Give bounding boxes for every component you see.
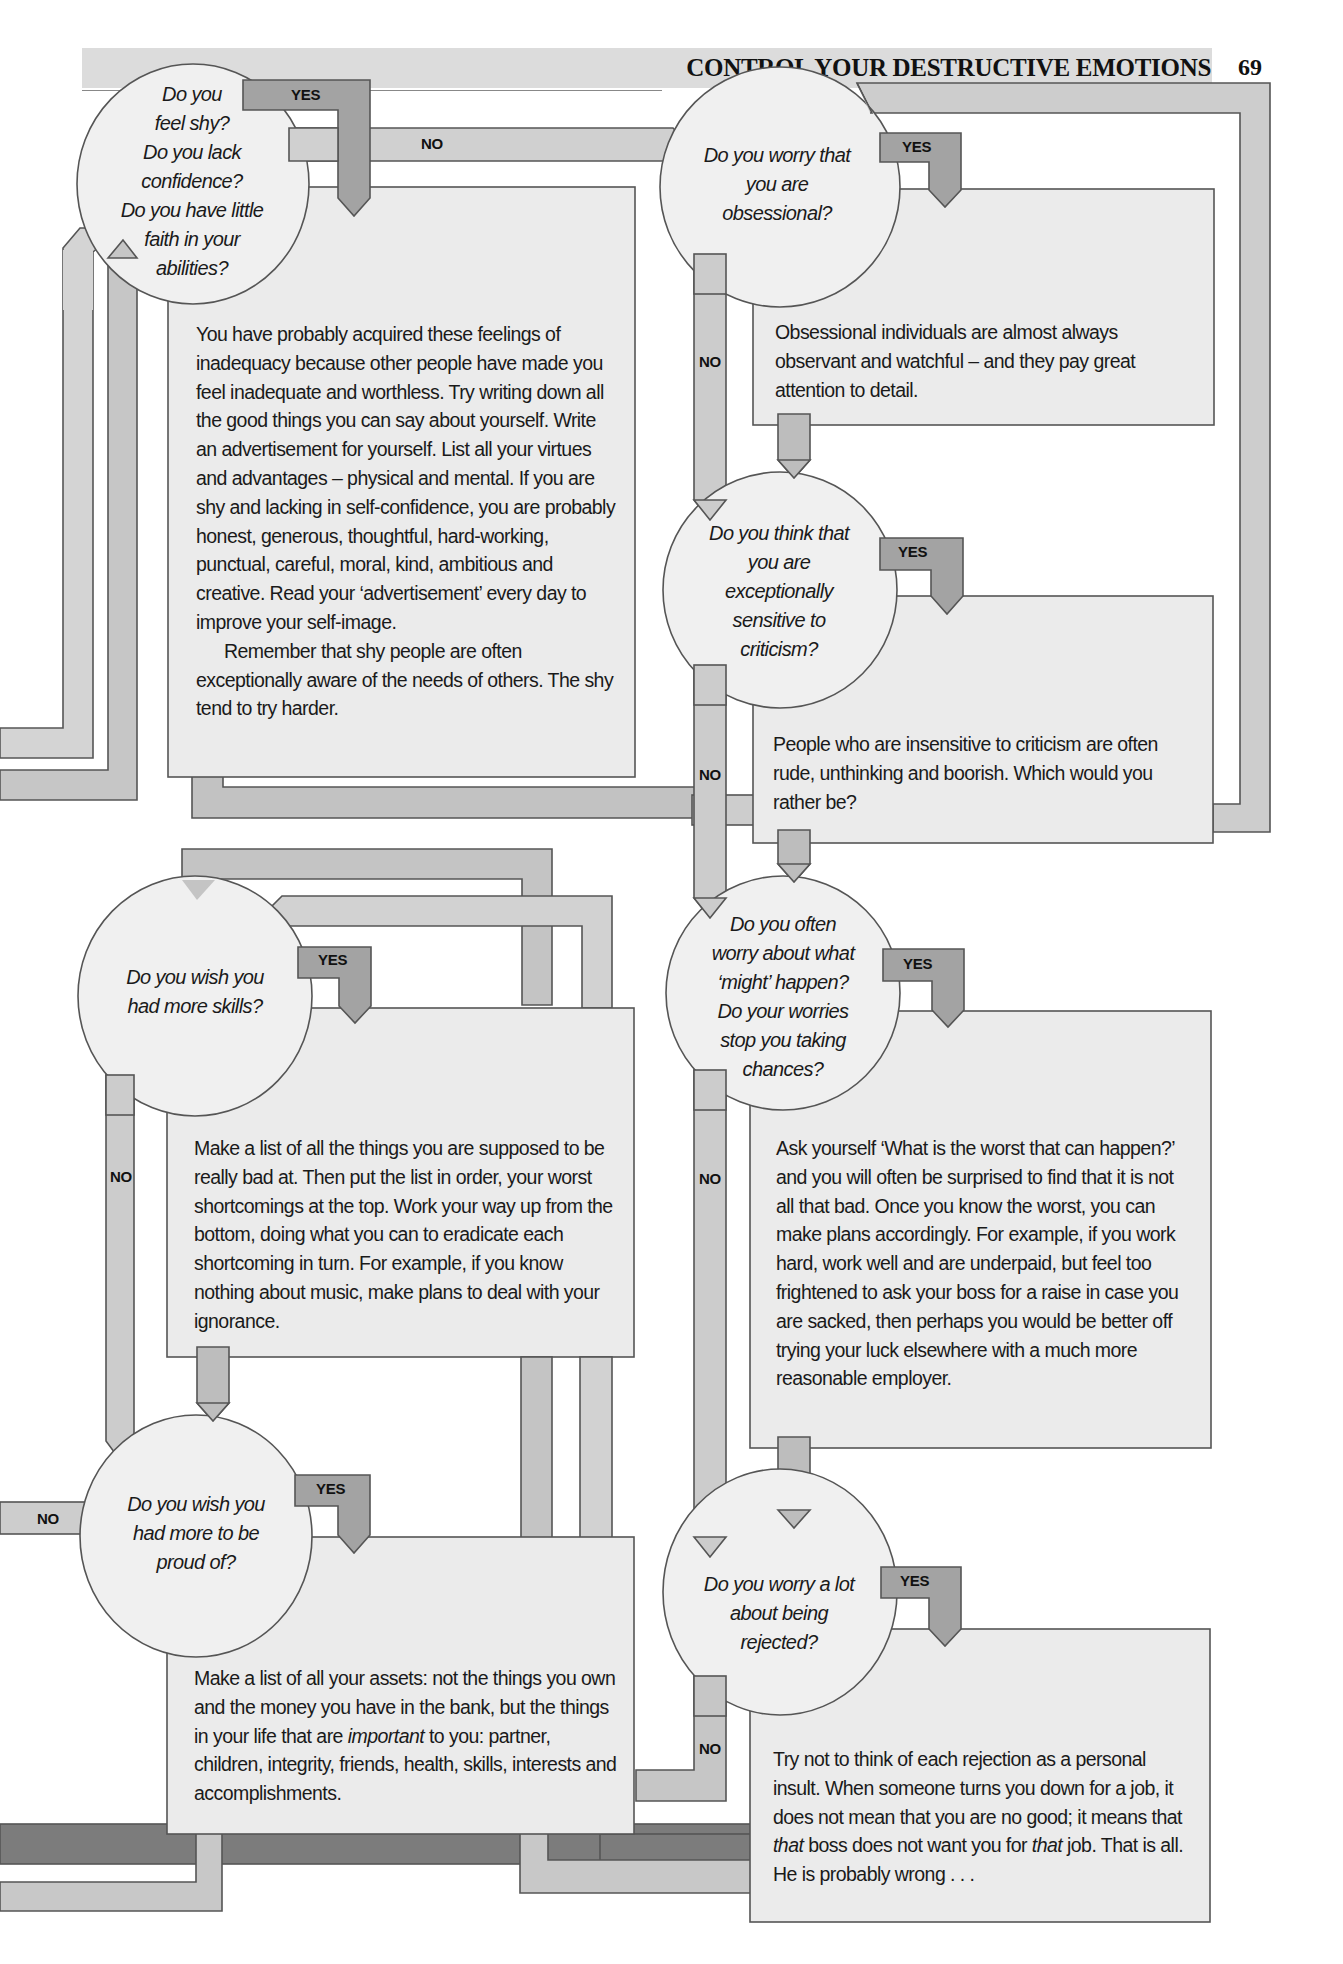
yes-label-shy: YES — [291, 86, 320, 103]
answer-paragraph: Make a list of all your assets: not the … — [194, 1664, 619, 1808]
emphasis: that — [773, 1834, 803, 1856]
question-line: Do you have little — [92, 196, 292, 225]
question-worry: Do you often worry about what ‘might’ ha… — [676, 910, 890, 1084]
no-label-shy: NO — [421, 135, 443, 152]
question-line: had more skills? — [95, 992, 295, 1021]
question-line: about being — [672, 1599, 886, 1628]
question-line: chances? — [676, 1055, 890, 1084]
question-line: exceptionally — [672, 577, 886, 606]
question-line: sensitive to — [672, 606, 886, 635]
answer-paragraph: Obsessional individuals are almost alway… — [775, 318, 1195, 404]
yes-label-rejected: YES — [900, 1572, 929, 1589]
answer-text-rejected: Try not to think of each rejection as a … — [773, 1745, 1193, 1889]
no-arrow-skills-to-proud — [106, 1075, 134, 1460]
question-line: Do your worries — [676, 997, 890, 1026]
question-line: Do you — [92, 80, 292, 109]
question-line: Do you often — [676, 910, 890, 939]
question-line: confidence? — [92, 167, 292, 196]
answer-text-shy: You have probably acquired these feeling… — [196, 320, 616, 723]
no-label-proud: NO — [37, 1510, 59, 1527]
answer-paragraph: You have probably acquired these feeling… — [196, 320, 616, 637]
question-shy: Do you feel shy? Do you lack confidence?… — [92, 80, 292, 283]
yes-label-obsessional: YES — [902, 138, 931, 155]
question-rejected: Do you worry a lot about being rejected? — [672, 1570, 886, 1657]
no-label-rejected: NO — [699, 1740, 721, 1757]
question-line: criticism? — [672, 635, 886, 664]
no-arrow-worry-to-rejected — [694, 1070, 726, 1557]
question-criticism: Do you think that you are exceptionally … — [672, 519, 886, 664]
question-line: Do you worry a lot — [672, 1570, 886, 1599]
question-line: Do you worry that — [670, 141, 884, 170]
yes-label-skills: YES — [318, 951, 347, 968]
question-line: had more to be — [96, 1519, 296, 1548]
question-skills: Do you wish you had more skills? — [95, 963, 295, 1021]
answer-text-proud: Make a list of all your assets: not the … — [194, 1664, 619, 1808]
text-run: boss does not want you for — [803, 1834, 1032, 1856]
emphasis: that — [1032, 1834, 1062, 1856]
question-line: obsessional? — [670, 199, 884, 228]
question-line: Do you wish you — [95, 963, 295, 992]
question-proud: Do you wish you had more to be proud of? — [96, 1490, 296, 1577]
shy-to-criticism-connector — [192, 775, 700, 818]
question-line: Do you lack — [92, 138, 292, 167]
question-obsessional: Do you worry that you are obsessional? — [670, 141, 884, 228]
book-page: CONTROL YOUR DESTRUCTIVE EMOTIONS 69 — [0, 0, 1343, 1964]
question-line: feel shy? — [92, 109, 292, 138]
answer-paragraph: Ask yourself ‘What is the worst that can… — [776, 1134, 1186, 1393]
question-line: proud of? — [96, 1548, 296, 1577]
question-line: faith in your — [92, 225, 292, 254]
question-line: Do you think that — [672, 519, 886, 548]
emphasis: important — [348, 1725, 424, 1747]
question-line: stop you taking — [676, 1026, 890, 1055]
answer-text-skills: Make a list of all the things you are su… — [194, 1134, 614, 1336]
answer-text-obsessional: Obsessional individuals are almost alway… — [775, 318, 1195, 404]
no-label-worry: NO — [699, 1170, 721, 1187]
no-label-obsessional: NO — [699, 353, 721, 370]
question-line: you are — [670, 170, 884, 199]
answer-text-worry: Ask yourself ‘What is the worst that can… — [776, 1134, 1186, 1393]
answer-paragraph: Try not to think of each rejection as a … — [773, 1745, 1193, 1889]
yes-label-worry: YES — [903, 955, 932, 972]
yes-label-proud: YES — [316, 1480, 345, 1497]
text-run: Try not to think of each rejection as a … — [773, 1748, 1182, 1828]
answer-paragraph: People who are insensitive to criticism … — [773, 730, 1173, 816]
question-line: you are — [672, 548, 886, 577]
answer-paragraph: Remember that shy people are often excep… — [196, 637, 616, 723]
question-line: ‘might’ happen? — [676, 968, 890, 997]
question-line: rejected? — [672, 1628, 886, 1657]
question-line: worry about what — [676, 939, 890, 968]
question-line: Do you wish you — [96, 1490, 296, 1519]
no-label-skills: NO — [110, 1168, 132, 1185]
no-label-criticism: NO — [699, 766, 721, 783]
answer-text-criticism: People who are insensitive to criticism … — [773, 730, 1173, 816]
question-line: abilities? — [92, 254, 292, 283]
answer-paragraph: Make a list of all the things you are su… — [194, 1134, 614, 1336]
yes-label-criticism: YES — [898, 543, 927, 560]
